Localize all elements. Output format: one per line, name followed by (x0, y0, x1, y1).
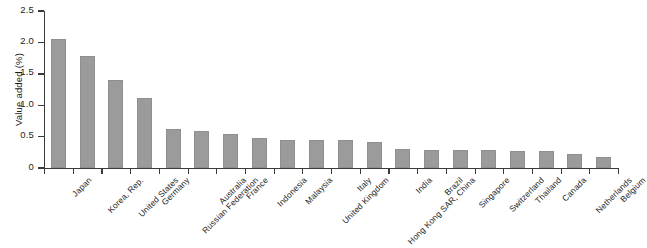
x-tick-mark (446, 169, 447, 174)
bar (108, 80, 123, 168)
bar (80, 56, 95, 168)
x-tick-mark (216, 169, 217, 174)
bar (194, 131, 209, 168)
x-axis-label: Japan (70, 175, 94, 199)
x-tick-mark (532, 169, 533, 174)
bar (280, 140, 295, 168)
x-tick-mark (331, 169, 332, 174)
y-tick-mark (38, 10, 44, 11)
x-tick-mark (302, 169, 303, 174)
y-tick-label: 2.0 (0, 35, 34, 46)
x-axis-label: Canada (560, 175, 588, 203)
bar (481, 150, 496, 168)
x-axis-label: India (413, 175, 433, 195)
y-tick-label: 2.5 (0, 4, 34, 15)
bar (166, 129, 181, 168)
x-tick-mark (561, 169, 562, 174)
bar (424, 150, 439, 168)
x-tick-mark (44, 169, 45, 174)
bar (395, 149, 410, 168)
bar (596, 157, 611, 168)
bar (223, 134, 238, 168)
x-tick-mark (388, 169, 389, 174)
y-tick-label: 1.5 (0, 66, 34, 77)
x-tick-mark (503, 169, 504, 174)
bar (510, 151, 525, 168)
x-tick-mark (159, 169, 160, 174)
y-tick-label: 0 (0, 161, 34, 172)
y-tick-mark (38, 105, 44, 106)
x-tick-mark (245, 169, 246, 174)
x-tick-mark (130, 169, 131, 174)
x-tick-mark (618, 169, 619, 174)
x-tick-mark (101, 169, 102, 174)
x-axis-label: Singapore (477, 175, 512, 210)
x-tick-mark (73, 169, 74, 174)
y-tick-mark (38, 73, 44, 74)
bar (252, 138, 267, 168)
x-tick-mark (417, 169, 418, 174)
bar (567, 154, 582, 168)
y-tick-mark (38, 42, 44, 43)
x-tick-mark (188, 169, 189, 174)
bar (539, 151, 554, 168)
bar (137, 98, 152, 168)
x-tick-mark (274, 169, 275, 174)
x-tick-mark (589, 169, 590, 174)
bar (453, 150, 468, 168)
y-tick-label: 1.0 (0, 98, 34, 109)
x-tick-mark (475, 169, 476, 174)
bar (309, 140, 324, 168)
x-tick-mark (360, 169, 361, 174)
bar (367, 142, 382, 168)
y-tick-label: 0.5 (0, 129, 34, 140)
x-axis-label: Indonesia (275, 175, 309, 209)
y-tick-mark (38, 136, 44, 137)
y-axis-line (44, 11, 45, 169)
bar (51, 39, 66, 168)
bar (338, 140, 353, 168)
